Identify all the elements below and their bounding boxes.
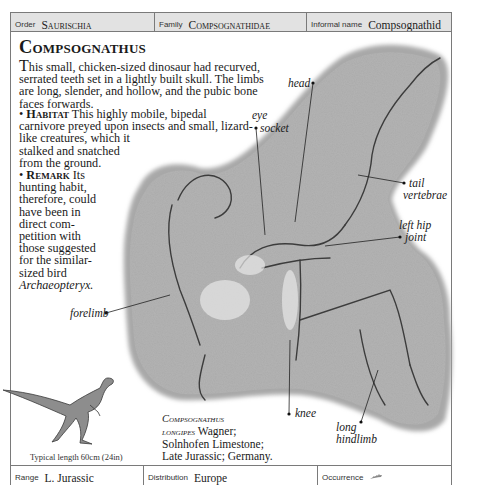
intro-text: his small, chicken-sized dinosaur had re… (19, 60, 264, 111)
range-value: L. Jurassic (45, 472, 94, 484)
formation: Solnhofen Limestone; (162, 438, 273, 450)
callout-eye-socket-line1: eye (252, 110, 267, 122)
callout-head: head (288, 78, 310, 90)
distribution-value: Europe (194, 472, 227, 484)
entry-title: Compsognathus (19, 37, 146, 58)
range-label: Range (15, 473, 39, 482)
fossil-occurrence-icon (369, 474, 383, 480)
callout-forelimb: forelimb (70, 308, 109, 320)
occurrence-cell: Occurrence (318, 466, 451, 485)
specimen-caption: Compsognathus longipes Wagner; Solnhofen… (162, 412, 273, 462)
distribution-cell: Distribution Europe (144, 466, 318, 485)
archaeopteryx-ref: Archaeopteryx. (19, 279, 139, 291)
species-name: longipes (162, 426, 195, 437)
callout-hip-line2: joint (405, 232, 426, 244)
distribution-label: Distribution (148, 473, 188, 482)
habitat-line: like creatures, which it (19, 132, 269, 144)
dinosaur-reconstruction-drawing (3, 378, 113, 444)
callout-hindlimb-line1: long (336, 422, 356, 434)
age-locality: Late Jurassic; Germany. (162, 450, 273, 462)
habitat-line: stalked and snatched (19, 145, 269, 157)
remark-paragraph: • Remark Its hunting habit, therefore, c… (19, 169, 139, 291)
callout-tail-line2: vertebrae (403, 190, 447, 202)
genus-name: Compsognathus (162, 413, 224, 424)
range-cell: Range L. Jurassic (11, 466, 144, 485)
range-footer: Range L. Jurassic Distribution Europe Oc… (10, 465, 452, 485)
callout-tail-line1: tail (409, 178, 424, 190)
callout-hindlimb-line2: hindlimb (336, 434, 377, 446)
remark-line: therefore, could (19, 193, 139, 205)
remark-line: have been in (19, 206, 139, 218)
habitat-paragraph: • Habitat This highly mobile, bipedal ca… (19, 108, 269, 169)
entry-intro: This small, chicken-sized dinosaur had r… (19, 60, 264, 110)
callout-hip-line1: left hip (399, 220, 431, 232)
typical-length-caption: Typical length 60cm (24in) (30, 452, 123, 462)
occurrence-label: Occurrence (322, 473, 363, 482)
remark-line: sized bird (19, 267, 139, 279)
callout-eye-socket-line2: socket (260, 123, 289, 135)
callout-knee: knee (295, 408, 316, 420)
author: Wagner; (198, 425, 237, 437)
remark-line: for the similar- (19, 254, 139, 266)
